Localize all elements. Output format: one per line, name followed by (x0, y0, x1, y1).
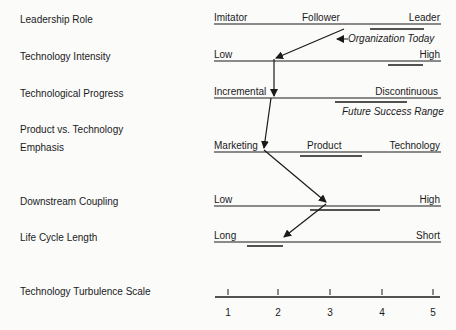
emphasis-right-label: Technology (389, 140, 440, 152)
emphasis-left-label: Marketing (214, 140, 258, 152)
scale-number-4: 4 (377, 307, 387, 319)
row-label-technological-progress: Technological Progress (20, 88, 123, 100)
profile-arrow-5 (284, 204, 326, 237)
emphasis-middle-label: Product (307, 140, 341, 152)
intensity-left-label: Low (214, 49, 232, 61)
row-label-leadership-role: Leadership Role (20, 14, 93, 26)
row-label-life-cycle-length: Life Cycle Length (20, 232, 97, 244)
row-label-product-vs-technology-line1: Product vs. Technology (20, 124, 123, 136)
row-label-product-vs-technology-line2: Emphasis (20, 142, 64, 154)
leadership-left-label: Imitator (214, 12, 247, 24)
profile-arrow-1 (276, 29, 344, 58)
scale-number-1: 1 (223, 307, 233, 319)
coupling-right-label: High (419, 194, 440, 206)
coupling-left-label: Low (214, 194, 232, 206)
row-label-downstream-coupling: Downstream Coupling (20, 196, 118, 208)
scale-number-2: 2 (273, 307, 283, 319)
row-label-technology-intensity: Technology Intensity (20, 51, 111, 63)
turbulence-scale-label: Technology Turbulence Scale (20, 286, 151, 298)
future-success-range-annotation: Future Success Range (342, 106, 444, 118)
leadership-middle-label: Follower (302, 12, 340, 24)
organization-today-annotation: Organization Today (348, 33, 434, 45)
profile-arrow-3 (264, 98, 271, 148)
lifecycle-right-label: Short (416, 230, 440, 242)
profile-arrow-4 (264, 150, 326, 202)
lifecycle-left-label: Long (214, 230, 236, 242)
scale-number-3: 3 (325, 307, 335, 319)
scale-number-5: 5 (428, 307, 438, 319)
intensity-right-label: High (419, 49, 440, 61)
leadership-right-label: Leader (409, 12, 440, 24)
progress-right-label: Discontinuous (375, 86, 438, 98)
progress-left-label: Incremental (214, 86, 266, 98)
